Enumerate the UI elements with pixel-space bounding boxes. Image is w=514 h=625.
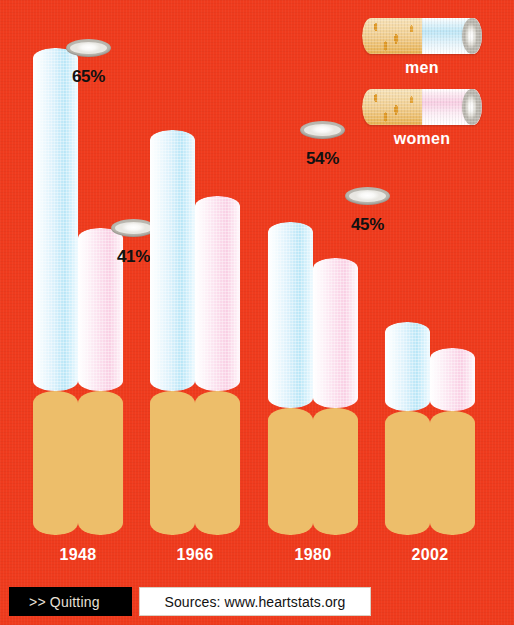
x-tick-1980: 1980 (268, 546, 358, 564)
bar-paper (385, 322, 430, 411)
bar-group-1948: 65% 41% (33, 0, 123, 535)
legend-label-men: men (342, 59, 502, 77)
x-tick-2002: 2002 (385, 546, 475, 564)
cigarette-swatch-women-icon (362, 89, 482, 125)
bar-filter (385, 411, 430, 535)
bar-value-men-1948: 65% (66, 67, 111, 87)
bar-women-1948[interactable] (78, 228, 123, 535)
bar-women-1980[interactable] (313, 258, 358, 535)
bar-men-1948[interactable] (33, 48, 78, 535)
bar-filter (195, 391, 240, 535)
legend-item-women: women (342, 89, 502, 148)
bar-filter (78, 391, 123, 535)
cigarette-rim-icon (66, 39, 111, 57)
x-tick-1948: 1948 (33, 546, 123, 564)
legend-item-men: men (342, 18, 502, 77)
quitting-link[interactable]: >> Quitting (9, 587, 132, 616)
bar-paper (150, 130, 195, 391)
bar-men-1980[interactable] (268, 222, 313, 535)
bar-paper (430, 348, 475, 411)
legend: men women (342, 18, 502, 160)
texture-overlay (362, 18, 482, 54)
texture-overlay (362, 89, 482, 125)
sources-note: Sources: www.heartstats.org (139, 587, 371, 616)
infographic-root: 65% 41% 54% 45% (0, 0, 514, 625)
bar-filter (33, 391, 78, 535)
bar-paper (268, 222, 313, 408)
bar-women-2002[interactable] (430, 348, 475, 535)
bar-filter (150, 391, 195, 535)
bar-paper (195, 196, 240, 391)
bar-women-1966[interactable] (195, 196, 240, 535)
bar-filter (313, 408, 358, 535)
bar-filter (430, 411, 475, 535)
bar-men-1966[interactable] (150, 130, 195, 535)
bar-men-2002[interactable] (385, 322, 430, 535)
bar-filter (268, 408, 313, 535)
cigarette-swatch-men-icon (362, 18, 482, 54)
bar-paper (33, 48, 78, 391)
bar-group-1966: 54% 45% (150, 0, 240, 535)
footer: >> Quitting Sources: www.heartstats.org (0, 579, 514, 625)
bar-paper (313, 258, 358, 408)
x-tick-1966: 1966 (150, 546, 240, 564)
legend-label-women: women (342, 130, 502, 148)
